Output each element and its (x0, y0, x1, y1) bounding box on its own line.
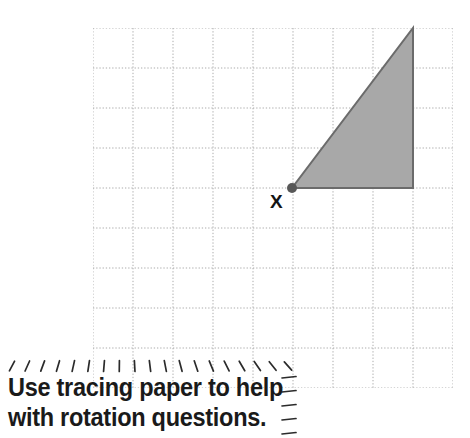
callout-line-2: with rotation questions. (8, 402, 273, 432)
shaded-triangle[interactable] (292, 28, 413, 188)
callout-line-1: Use tracing paper to help (8, 372, 273, 402)
worksheet-page: X Use tracing paper to help with rotatio… (0, 0, 470, 438)
rotation-centre-dot[interactable] (287, 183, 297, 193)
tracing-paper-callout: Use tracing paper to help with rotation … (0, 352, 300, 438)
callout-text: Use tracing paper to help with rotation … (8, 372, 273, 432)
vertex-label-x: X (270, 192, 282, 211)
